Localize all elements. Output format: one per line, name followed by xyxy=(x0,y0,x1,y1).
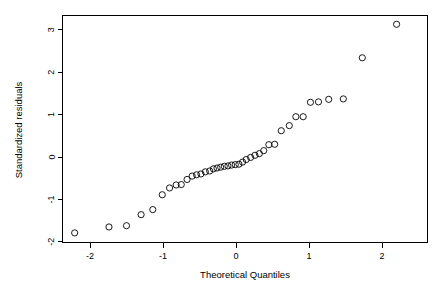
x-tick-label: -1 xyxy=(159,251,167,261)
y-tick-label: -1 xyxy=(47,195,57,203)
qq-plot-canvas: -2-1012 -2-10123 Theoretical Quantiles S… xyxy=(0,0,442,287)
y-axis-title: Standardized residuals xyxy=(13,81,24,178)
x-tick-label: 2 xyxy=(379,251,384,261)
figure-background xyxy=(0,0,442,287)
y-tick-label: 1 xyxy=(47,112,57,117)
x-tick-label: -2 xyxy=(86,251,94,261)
y-tick-label: 3 xyxy=(47,27,57,32)
x-tick-label: 0 xyxy=(233,251,238,261)
x-axis-title: Theoretical Quantiles xyxy=(200,269,290,280)
y-tick-label: 2 xyxy=(47,70,57,75)
x-tick-label: 1 xyxy=(306,251,311,261)
y-tick-label: 0 xyxy=(47,154,57,159)
y-tick-label: -2 xyxy=(47,238,57,246)
qq-plot-figure: -2-1012 -2-10123 Theoretical Quantiles S… xyxy=(0,0,442,287)
